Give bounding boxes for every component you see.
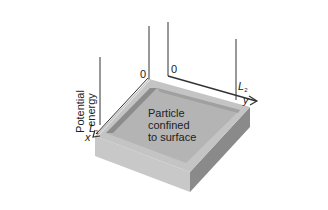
x-axis-name-label: x xyxy=(84,131,91,143)
particle-in-box-diagram: Potential energy 0 L1 x 0 L2 y Particle … xyxy=(0,0,328,210)
surface-label-line1: Particle xyxy=(148,107,185,119)
y-axis-origin-label: 0 xyxy=(171,63,177,75)
y-axis-end-label: L2 xyxy=(238,80,248,93)
x-axis-end-label: L1 xyxy=(89,122,99,135)
y-end-subscript: 2 xyxy=(244,87,248,93)
surface-label-line3: to surface xyxy=(148,131,196,143)
surface-label-line2: confined xyxy=(148,119,190,131)
x-axis-origin-label: 0 xyxy=(140,68,146,80)
y-axis-name-label: y xyxy=(242,94,250,106)
